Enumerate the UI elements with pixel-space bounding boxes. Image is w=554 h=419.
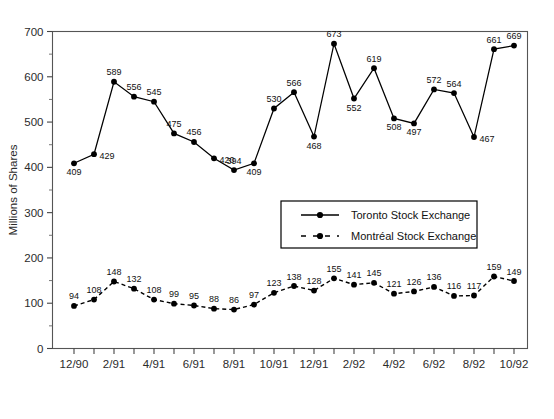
legend-label: Montréal Stock Exchange — [351, 230, 476, 242]
x-axis-tick-labels: 12/902/914/916/918/9110/9112/912/924/926… — [60, 358, 529, 370]
data-point-label: 564 — [446, 79, 461, 89]
x-tick-label: 10/91 — [260, 358, 289, 370]
data-point — [431, 284, 437, 290]
data-point-label: 589 — [106, 67, 121, 77]
y-tick-label: 0 — [37, 343, 43, 355]
data-point-label: 429 — [100, 151, 115, 161]
x-tick-label: 8/92 — [463, 358, 485, 370]
data-point — [411, 289, 417, 295]
data-point-label: 88 — [209, 294, 219, 304]
data-point-label: 673 — [326, 29, 341, 39]
data-point-label: 661 — [486, 35, 501, 45]
data-point-label: 123 — [266, 278, 281, 288]
data-point-label: 145 — [366, 268, 381, 278]
data-point — [151, 99, 157, 105]
x-tick-label: 6/92 — [423, 358, 445, 370]
data-point — [371, 280, 377, 286]
data-point-label: 126 — [406, 277, 421, 287]
data-point — [271, 290, 277, 296]
data-point-label: 136 — [426, 272, 441, 282]
data-point-label: 132 — [126, 274, 141, 284]
data-point — [391, 291, 397, 297]
y-tick-label: 400 — [24, 161, 43, 173]
data-point — [411, 121, 417, 127]
data-point-label: 497 — [406, 127, 421, 137]
legend-label: Toronto Stock Exchange — [351, 209, 470, 221]
data-point-label: 95 — [189, 291, 199, 301]
data-point — [231, 307, 237, 313]
data-point — [151, 297, 157, 303]
data-point-label: 456 — [186, 127, 201, 137]
data-point-label: 141 — [346, 270, 361, 280]
data-point — [231, 167, 237, 173]
data-point-label: 94 — [69, 291, 79, 301]
data-point — [351, 282, 357, 288]
legend-swatch-marker — [317, 233, 323, 239]
data-point-label: 116 — [447, 281, 461, 291]
data-point-label: 108 — [86, 285, 101, 295]
y-axis-tick-labels: 0100200300400500600700 — [24, 26, 43, 355]
data-point-label: 545 — [146, 87, 161, 97]
data-point-label: 409 — [66, 167, 81, 177]
data-point-label: 86 — [229, 295, 239, 305]
data-point — [71, 160, 77, 166]
data-point-label: 128 — [306, 276, 321, 286]
data-point — [111, 279, 117, 285]
y-tick-label: 100 — [24, 297, 43, 309]
x-tick-label: 4/92 — [383, 358, 405, 370]
data-point — [311, 288, 317, 294]
data-point — [391, 116, 397, 122]
x-tick-label: 2/91 — [103, 358, 125, 370]
y-tick-label: 300 — [24, 207, 43, 219]
data-point-label: 475 — [166, 119, 181, 129]
data-point — [71, 303, 77, 309]
data-point-label: 409 — [246, 167, 261, 177]
data-point — [491, 274, 497, 280]
data-point-label: 121 — [386, 279, 401, 289]
data-point-label: 468 — [306, 141, 321, 151]
data-point-label: 148 — [106, 267, 121, 277]
x-tick-label: 10/92 — [500, 358, 529, 370]
data-point — [471, 293, 477, 299]
data-point-label: 566 — [286, 78, 301, 88]
data-point — [171, 301, 177, 307]
data-point — [171, 130, 177, 136]
data-point-label: 138 — [286, 272, 301, 282]
data-point — [291, 283, 297, 289]
data-point-label: 155 — [326, 264, 341, 274]
data-point — [111, 79, 117, 85]
y-axis-ticks — [47, 32, 53, 349]
data-point — [331, 275, 337, 281]
x-tick-label: 6/91 — [183, 358, 205, 370]
data-point — [191, 303, 197, 309]
y-tick-label: 200 — [24, 252, 43, 264]
data-point-label: 97 — [249, 290, 259, 300]
data-point — [511, 278, 517, 284]
data-point — [211, 306, 217, 312]
data-point-label: 117 — [467, 281, 481, 291]
data-point — [291, 89, 297, 95]
x-axis-ticks — [74, 349, 514, 355]
data-point — [471, 134, 477, 140]
data-point-label: 619 — [366, 54, 381, 64]
data-point — [371, 65, 377, 71]
data-point-label: 508 — [386, 122, 401, 132]
legend-swatch-marker — [317, 212, 323, 218]
data-point — [271, 106, 277, 112]
y-tick-label: 600 — [24, 71, 43, 83]
data-point-label: 572 — [426, 75, 441, 85]
data-point — [491, 46, 497, 52]
x-tick-label: 12/91 — [300, 358, 329, 370]
data-point — [251, 302, 257, 308]
data-point — [91, 297, 97, 303]
x-tick-label: 8/91 — [223, 358, 245, 370]
data-point — [331, 41, 337, 47]
y-axis-title-text: Millions of Shares — [7, 144, 19, 235]
data-point — [451, 90, 457, 96]
data-point-label: 394 — [226, 156, 241, 166]
data-point-label: 159 — [486, 262, 501, 272]
chart-container: 0100200300400500600700 12/902/914/916/91… — [0, 0, 554, 419]
data-point-label: 467 — [480, 134, 495, 144]
chart-legend: Toronto Stock ExchangeMontréal Stock Exc… — [281, 201, 477, 248]
y-axis-title: Millions of Shares — [7, 144, 19, 235]
